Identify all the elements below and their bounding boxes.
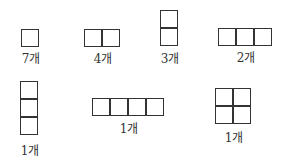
tromino-vertical-count-label: 1개 — [21, 145, 40, 157]
domino-horizontal-count-label: 4개 — [94, 53, 113, 65]
grid-cell — [160, 10, 178, 28]
tromino-vertical-shape — [21, 82, 39, 136]
grid-cell — [236, 28, 254, 46]
square-2x2-count-label: 1개 — [225, 132, 244, 144]
grid-cell — [146, 98, 164, 116]
grid-cell — [233, 88, 251, 106]
grid-cell — [160, 28, 178, 46]
grid-cell — [20, 99, 38, 117]
square-2x2-shape — [216, 89, 252, 125]
grid-cell — [128, 98, 146, 116]
grid-cell — [215, 106, 233, 124]
grid-cell — [110, 98, 128, 116]
grid-cell — [254, 28, 272, 46]
tetromino-horizontal-shape — [93, 99, 165, 117]
grid-cell — [20, 117, 38, 135]
grid-cell — [84, 29, 102, 47]
tromino-horizontal-shape — [219, 29, 273, 47]
grid-cell — [20, 81, 38, 99]
domino-vertical-shape — [161, 11, 179, 47]
grid-cell — [215, 88, 233, 106]
grid-cell — [233, 106, 251, 124]
grid-cell — [21, 29, 39, 47]
grid-cell — [218, 28, 236, 46]
domino-horizontal-shape — [85, 30, 121, 48]
grid-cell — [92, 98, 110, 116]
grid-cell — [102, 29, 120, 47]
single-square-shape — [22, 30, 40, 48]
tetromino-horizontal-count-label: 1개 — [120, 123, 139, 135]
domino-vertical-count-label: 3개 — [161, 53, 180, 65]
tromino-horizontal-count-label: 2개 — [237, 52, 256, 64]
single-square-count-label: 7개 — [22, 53, 41, 65]
